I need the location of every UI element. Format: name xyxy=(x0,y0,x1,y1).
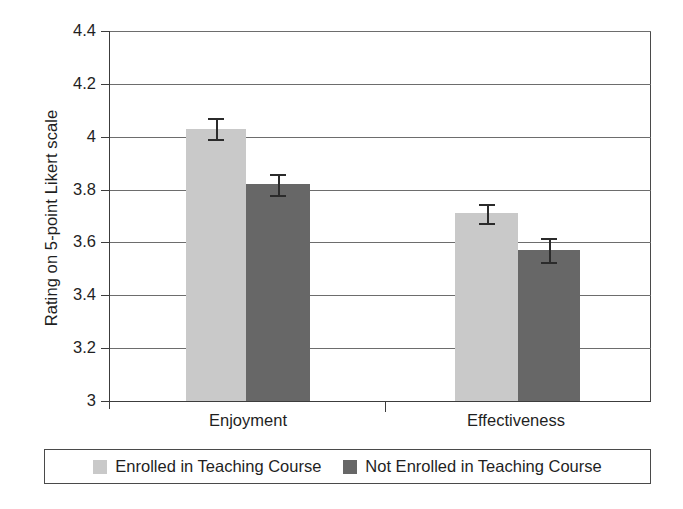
y-axis-tick xyxy=(101,31,110,32)
y-axis-tick xyxy=(101,242,110,243)
gridline xyxy=(109,31,651,32)
error-bar-cap-upper xyxy=(208,118,224,120)
y-axis-tick-label: 3 xyxy=(36,392,96,409)
gridline xyxy=(109,84,651,85)
x-axis-label-enjoyment: Enjoyment xyxy=(138,411,358,430)
category-separator-tick xyxy=(385,401,386,412)
y-axis-tick xyxy=(101,401,110,402)
error-bar-cap-lower xyxy=(479,223,495,225)
x-axis-label-effectiveness: Effectiveness xyxy=(406,411,626,430)
y-axis-tick-labels: 33.23.43.63.844.24.4 xyxy=(30,0,96,440)
error-bar-cap-lower xyxy=(208,139,224,141)
bar-enjoyment-not-enrolled xyxy=(246,184,310,401)
chart-legend: Enrolled in Teaching Course Not Enrolled… xyxy=(44,449,651,484)
error-bar-line xyxy=(216,118,218,139)
y-axis-tick xyxy=(101,137,110,138)
plot-area xyxy=(109,31,651,401)
bar-chart-figure: Rating on 5-point Likert scale 33.23.43.… xyxy=(0,0,683,509)
y-axis-tick-label: 3.4 xyxy=(36,286,96,303)
error-bar-cap-upper xyxy=(270,174,286,176)
dark-gray-swatch-icon xyxy=(343,460,357,474)
error-bar-line xyxy=(487,204,489,223)
bar-effectiveness-not-enrolled xyxy=(518,250,580,401)
legend-label-not-enrolled: Not Enrolled in Teaching Course xyxy=(365,457,601,476)
legend-item-not-enrolled: Not Enrolled in Teaching Course xyxy=(343,457,601,476)
legend-label-enrolled: Enrolled in Teaching Course xyxy=(115,457,321,476)
y-axis-tick-label: 3.8 xyxy=(36,181,96,198)
error-bar-cap-lower xyxy=(541,262,557,264)
error-bar-cap-upper xyxy=(479,204,495,206)
error-bar-cap-upper xyxy=(541,238,557,240)
y-axis-tick xyxy=(101,84,110,85)
error-bar-cap-lower xyxy=(270,195,286,197)
y-axis-tick-label: 3.6 xyxy=(36,233,96,250)
y-axis-tick-label: 4.4 xyxy=(36,22,96,39)
y-axis-tick xyxy=(101,190,110,191)
light-gray-swatch-icon xyxy=(93,460,107,474)
gridline xyxy=(109,401,651,402)
bar-enjoyment-enrolled xyxy=(186,129,246,401)
y-axis-tick-label: 4.2 xyxy=(36,75,96,92)
error-bar-line xyxy=(549,238,551,262)
y-axis-tick-label: 4 xyxy=(36,128,96,145)
y-axis-tick xyxy=(101,348,110,349)
y-axis-tick xyxy=(101,295,110,296)
legend-item-enrolled: Enrolled in Teaching Course xyxy=(93,457,321,476)
bar-effectiveness-enrolled xyxy=(455,213,518,401)
error-bar-line xyxy=(278,174,280,195)
y-axis-tick-label: 3.2 xyxy=(36,339,96,356)
